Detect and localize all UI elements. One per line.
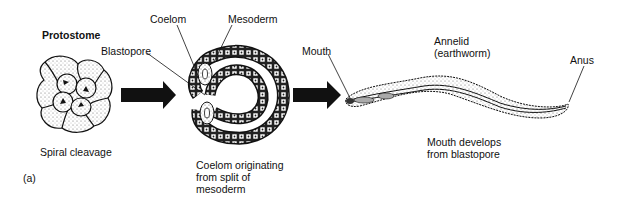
label-mesoderm: Mesoderm (228, 13, 278, 25)
earthworm (346, 76, 569, 118)
label-blastopore: Blastopore (101, 45, 151, 57)
caption-mouth-line1: Mouth develops (427, 136, 501, 148)
title-annelid-line1: Annelid (434, 35, 469, 47)
caption-coelom-line2: from split of (196, 171, 250, 183)
label-mouth: Mouth (302, 45, 331, 57)
arrow-1 (121, 81, 176, 109)
label-spiral-cleavage: Spiral cleavage (40, 146, 112, 158)
title-protostome: Protostome (42, 29, 100, 41)
panel-label: (a) (23, 172, 36, 184)
caption-coelom-line3: mesoderm (196, 183, 246, 195)
coelom-embryo (194, 51, 283, 138)
label-coelom: Coelom (150, 13, 186, 25)
title-annelid-line2: (earthworm) (434, 47, 491, 59)
arrow-2 (293, 81, 341, 109)
spiral-cleavage-embryo (37, 56, 112, 132)
caption-mouth-line2: from blastopore (427, 148, 500, 160)
caption-coelom-line1: Coelom originating (196, 159, 284, 171)
label-anus: Anus (570, 54, 594, 66)
